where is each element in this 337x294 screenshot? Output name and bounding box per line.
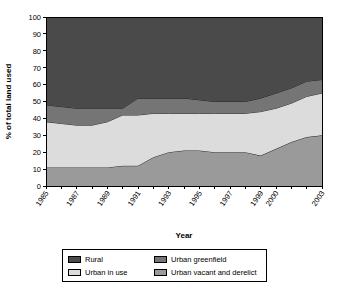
chart-legend: Rural Urban greenfield Urban in use Urba… (62, 249, 267, 282)
y-axis-tick-label: 80 (33, 47, 41, 56)
legend-swatch-urban-greenfield (154, 256, 167, 263)
area-chart: 0102030405060708090100% of total land us… (0, 0, 337, 245)
legend-label-rural: Rural (85, 256, 103, 264)
legend-swatch-urban-vacant-and-derelict (154, 269, 167, 276)
x-axis-tick-label: 1999 (248, 189, 265, 208)
y-axis-tick-label: 0 (37, 182, 41, 191)
x-axis-tick-label: 1989 (95, 189, 112, 208)
x-axis-title: Year (176, 231, 193, 240)
y-axis-tick-label: 10 (33, 165, 41, 174)
x-axis-tick-label: 1991 (126, 189, 143, 208)
legend-item-rural: Rural (68, 256, 154, 264)
legend-swatch-urban-in-use (68, 269, 81, 276)
x-axis-tick-label: 2000 (264, 189, 281, 208)
y-axis-tick-label: 30 (33, 131, 41, 140)
x-axis-tick-label: 1987 (64, 189, 81, 208)
x-axis-tick-label: 1997 (218, 189, 235, 208)
chart-container: 0102030405060708090100% of total land us… (0, 0, 337, 294)
legend-label-urban-vacant-and-derelict: Urban vacant and derelict (171, 269, 256, 277)
y-axis-tick-label: 40 (33, 114, 41, 123)
legend-label-urban-in-use: Urban in use (85, 269, 128, 277)
legend-item-urban-vacant-and-derelict: Urban vacant and derelict (154, 269, 261, 277)
x-axis-tick-label: 1995 (187, 189, 204, 208)
legend-label-urban-greenfield: Urban greenfield (171, 256, 226, 264)
x-axis-tick-label: 1985 (34, 189, 51, 208)
y-axis-tick-label: 20 (33, 148, 41, 157)
x-axis-tick-label: 2003 (310, 189, 327, 208)
y-axis-tick-label: 60 (33, 80, 41, 89)
x-axis-tick-label: 1993 (156, 189, 173, 208)
y-axis-tick-label: 90 (33, 30, 41, 39)
y-axis-title: % of total land used (4, 64, 13, 140)
y-axis-tick-label: 50 (33, 97, 41, 106)
y-axis-tick-label: 70 (33, 64, 41, 73)
legend-item-urban-in-use: Urban in use (68, 269, 154, 277)
legend-item-urban-greenfield: Urban greenfield (154, 256, 261, 264)
y-axis-tick-label: 100 (28, 13, 41, 22)
legend-swatch-rural (68, 256, 81, 263)
